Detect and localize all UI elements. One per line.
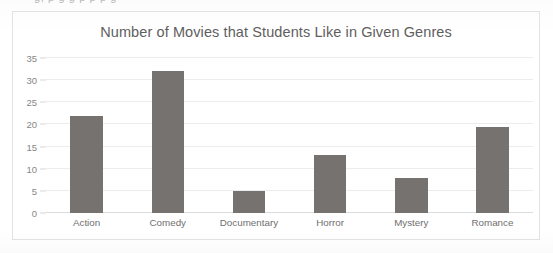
y-axis-tick-label-0: 0 — [32, 208, 37, 219]
y-axis-tick-label-20: 20 — [26, 119, 37, 130]
x-axis-label-documentary: Documentary — [208, 217, 289, 228]
bar-slot-mystery — [371, 58, 452, 213]
bar-action[interactable] — [70, 116, 102, 213]
chart-frame: Number of Movies that Students Like in G… — [12, 11, 540, 240]
y-axis-tick-label-30: 30 — [26, 75, 37, 86]
bar-romance[interactable] — [476, 127, 508, 213]
x-axis-label-mystery: Mystery — [371, 217, 452, 228]
bar-slot-documentary — [208, 58, 289, 213]
bar-slot-comedy — [127, 58, 208, 213]
bar-slot-romance — [452, 58, 533, 213]
x-axis: ActionComedyDocumentaryHorrorMysteryRoma… — [46, 217, 533, 228]
y-axis-tick-label-10: 10 — [26, 163, 37, 174]
bar-slot-horror — [290, 58, 371, 213]
bar-documentary[interactable] — [233, 191, 265, 213]
bar-comedy[interactable] — [152, 71, 184, 213]
y-axis-tick-label-15: 15 — [26, 141, 37, 152]
bar-group — [46, 58, 533, 213]
bar-slot-action — [46, 58, 127, 213]
bar-horror[interactable] — [314, 155, 346, 213]
y-axis-tick-label-25: 25 — [26, 97, 37, 108]
plot-area — [46, 58, 533, 213]
y-axis-tick-label-35: 35 — [26, 53, 37, 64]
chart-title: Number of Movies that Students Like in G… — [13, 24, 539, 40]
x-axis-label-comedy: Comedy — [127, 217, 208, 228]
x-axis-label-romance: Romance — [452, 217, 533, 228]
x-axis-label-horror: Horror — [290, 217, 371, 228]
y-axis-tick-label-5: 5 — [32, 185, 37, 196]
chart-page: g, p g g p p p g Number of Movies that S… — [0, 0, 553, 253]
bar-mystery[interactable] — [395, 178, 427, 213]
cut-off-text-above-figure: g, p g g p p p g — [34, 0, 334, 3]
x-axis-label-action: Action — [46, 217, 127, 228]
y-axis: 05101520253035 — [13, 58, 46, 213]
